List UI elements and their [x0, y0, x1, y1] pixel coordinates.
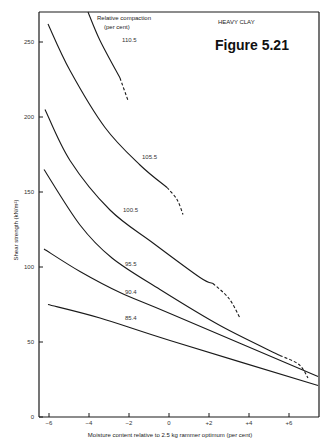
curve-110.5 — [88, 12, 120, 78]
y-tick-label: 250 — [24, 39, 35, 45]
curve-95.5 — [44, 170, 280, 356]
x-tick-label: −2 — [126, 420, 134, 426]
figure-number: Figure 5.21 — [215, 37, 289, 53]
curve-100.5 — [45, 110, 213, 284]
x-axis-ticks: −6−4−20+2+4+6 — [46, 413, 294, 426]
y-tick-label: 0 — [31, 414, 35, 420]
y-axis-label: Shear strength (kN/m²) — [13, 199, 19, 260]
curve-label: 110.5 — [122, 37, 137, 43]
x-tick-label: 0 — [167, 420, 171, 426]
curve-label: 90.4 — [125, 289, 137, 295]
legend-title-line2: (per cent) — [104, 24, 130, 30]
x-tick-label: +2 — [206, 420, 214, 426]
curve-labels: 110.5105.5100.595.590.485.4 — [122, 37, 158, 321]
y-tick-label: 100 — [24, 264, 35, 270]
x-tick-label: +6 — [286, 420, 294, 426]
y-axis-ticks: 050100150200250 — [24, 39, 43, 420]
compaction-curves — [44, 12, 318, 386]
curve-dashed-105.5 — [167, 188, 183, 215]
y-tick-label: 150 — [24, 189, 35, 195]
x-tick-label: −6 — [46, 420, 54, 426]
curve-105.5 — [48, 24, 167, 188]
y-tick-label: 50 — [27, 339, 34, 345]
curve-85.4 — [48, 305, 318, 386]
curve-dashed-100.5 — [213, 284, 240, 319]
x-axis-label: Moisture content relative to 2.5 kg ramm… — [88, 432, 252, 438]
x-tick-label: −4 — [86, 420, 94, 426]
y-tick-label: 200 — [24, 114, 35, 120]
x-tick-label: +4 — [246, 420, 254, 426]
curve-90.4 — [44, 249, 318, 377]
curve-label: 95.5 — [125, 261, 137, 267]
curve-label: 100.5 — [123, 207, 139, 213]
chart-figure: 050100150200250 −6−4−20+2+4+6 110.5105.5… — [0, 0, 331, 446]
legend-title-line1: Relative compaction — [97, 15, 151, 21]
plot-frame — [39, 12, 319, 417]
curve-label: 105.5 — [142, 154, 158, 160]
curve-dashed-110.5 — [120, 78, 128, 101]
soil-type-label: HEAVY CLAY — [218, 19, 255, 25]
curve-label: 85.4 — [125, 315, 137, 321]
